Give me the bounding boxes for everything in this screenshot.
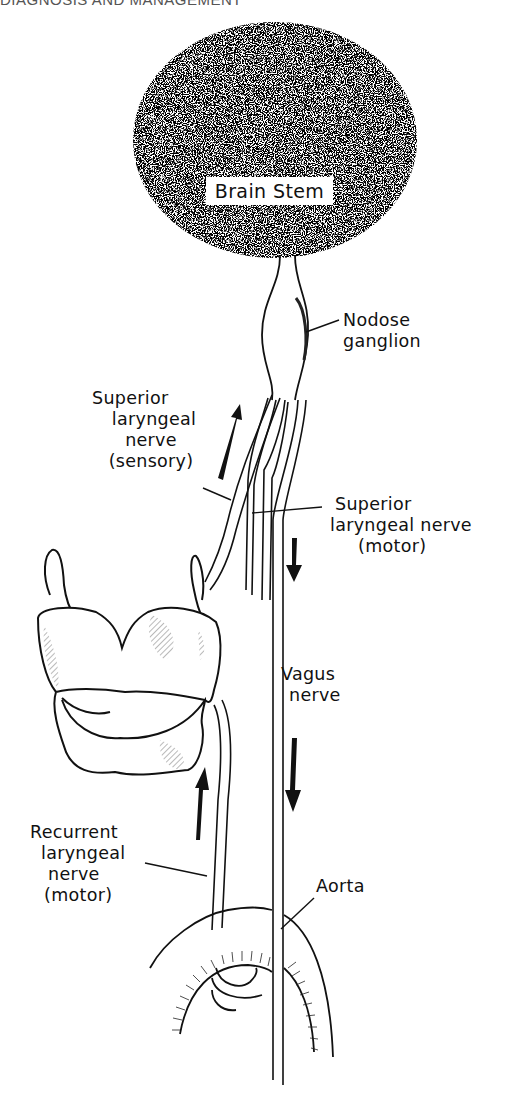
vagus-nerve-diagram <box>0 0 511 1115</box>
aorta-shape <box>150 907 333 1057</box>
label-line: laryngeal nerve <box>330 515 472 536</box>
label-line: Vagus <box>281 664 341 685</box>
label-line: laryngeal <box>30 843 125 864</box>
label-vagus-nerve: Vagus nerve <box>281 664 341 706</box>
label-aorta: Aorta <box>316 876 365 897</box>
leader-sup-motor <box>252 507 322 513</box>
label-line: ganglion <box>343 331 421 352</box>
label-line: (motor) <box>330 536 472 557</box>
arrow-sensory-up-icon <box>218 404 242 480</box>
label-line: (motor) <box>30 885 125 906</box>
label-line: Superior <box>84 388 204 409</box>
label-line: (sensory) <box>84 451 204 472</box>
label-recurrent-laryngeal-motor: Recurrent laryngeal nerve (motor) <box>30 822 125 906</box>
arrow-recurrent-up-icon <box>195 767 209 840</box>
label-line: laryngeal <box>84 409 204 430</box>
label-line: nerve <box>281 685 341 706</box>
arrow-motor-down-lower-icon <box>285 738 301 812</box>
label-superior-laryngeal-sensory: Superior laryngeal nerve (sensory) <box>84 388 204 472</box>
label-line: Nodose <box>343 310 421 331</box>
arrow-motor-down-upper-icon <box>286 538 302 582</box>
leader-recurrent <box>145 863 207 876</box>
recurrent-laryngeal-nerve <box>212 700 230 930</box>
label-brain-stem: Brain Stem <box>206 177 333 205</box>
leader-nodose <box>306 320 339 332</box>
larynx-shape <box>38 550 220 775</box>
label-line: nerve <box>30 864 125 885</box>
brain-stem-shape <box>133 22 417 258</box>
label-line: nerve <box>84 430 204 451</box>
label-nodose-ganglion: Nodose ganglion <box>343 310 421 352</box>
label-superior-laryngeal-motor: Superior laryngeal nerve (motor) <box>330 494 472 557</box>
nodose-ganglion-shape <box>262 256 308 400</box>
label-line: Superior <box>330 494 472 515</box>
leader-aorta <box>281 898 314 929</box>
label-line: Recurrent <box>30 822 125 843</box>
leader-sup-sensory <box>203 488 231 500</box>
